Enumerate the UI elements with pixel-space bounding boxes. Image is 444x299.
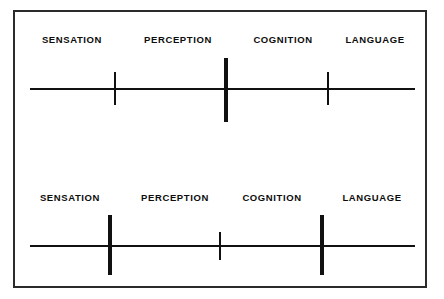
axis-label-language: LANGUAGE xyxy=(345,34,404,45)
continuum-diagram-top: SENSATIONPERCEPTIONCOGNITIONLANGUAGE xyxy=(0,28,444,148)
tick-perception-cognition xyxy=(224,58,228,122)
tick-sensation-perception xyxy=(108,215,112,275)
axis-label-row-top: SENSATIONPERCEPTIONCOGNITIONLANGUAGE xyxy=(17,34,417,54)
axis-line-bottom xyxy=(30,245,415,247)
tick-perception-cognition xyxy=(219,232,221,260)
axis-label-sensation: SENSATION xyxy=(42,34,102,45)
axis-label-perception: PERCEPTION xyxy=(144,34,212,45)
axis-label-sensation: SENSATION xyxy=(40,192,100,203)
figure-canvas: SENSATIONPERCEPTIONCOGNITIONLANGUAGE SEN… xyxy=(0,0,444,299)
axis-label-cognition: COGNITION xyxy=(242,192,301,203)
axis-line-top xyxy=(30,88,415,90)
axis-label-cognition: COGNITION xyxy=(253,34,312,45)
tick-cognition-language xyxy=(327,72,329,105)
continuum-diagram-bottom: SENSATIONPERCEPTIONCOGNITIONLANGUAGE xyxy=(0,186,444,299)
axis-label-row-bottom: SENSATIONPERCEPTIONCOGNITIONLANGUAGE xyxy=(17,192,417,212)
axis-label-language: LANGUAGE xyxy=(342,192,401,203)
axis-label-perception: PERCEPTION xyxy=(141,192,209,203)
tick-cognition-language xyxy=(320,215,324,275)
tick-sensation-perception xyxy=(114,72,116,105)
